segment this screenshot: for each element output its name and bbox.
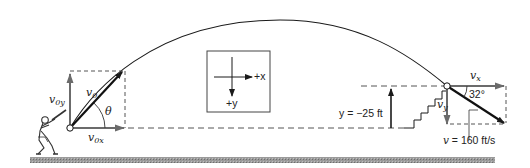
y-axis-label: +y <box>226 97 238 109</box>
axes-legend-box: +x +y <box>207 51 270 112</box>
angle-arc <box>464 86 467 97</box>
v0x-label: v0x <box>88 131 104 145</box>
v0y-label: v0y <box>49 93 65 107</box>
launch-point <box>67 125 73 131</box>
x-axis-label: +x <box>254 70 266 82</box>
vx-label: vx <box>470 69 481 83</box>
speed-label: v = 160 ft/s <box>443 134 495 146</box>
v0-arrow <box>70 72 122 128</box>
theta-arc <box>94 103 105 128</box>
ground <box>30 157 495 163</box>
angle-label: 32° <box>469 88 485 100</box>
batter-icon <box>36 110 66 154</box>
v0-label: v0 <box>86 86 97 100</box>
landing-point <box>444 83 450 89</box>
height-label: y = −25 ft <box>339 107 383 119</box>
theta-label: θ <box>105 105 112 118</box>
projectile-diagram: v0y v0 θ v0x +x +y y = −25 ft vx 32° vy … <box>0 0 530 168</box>
